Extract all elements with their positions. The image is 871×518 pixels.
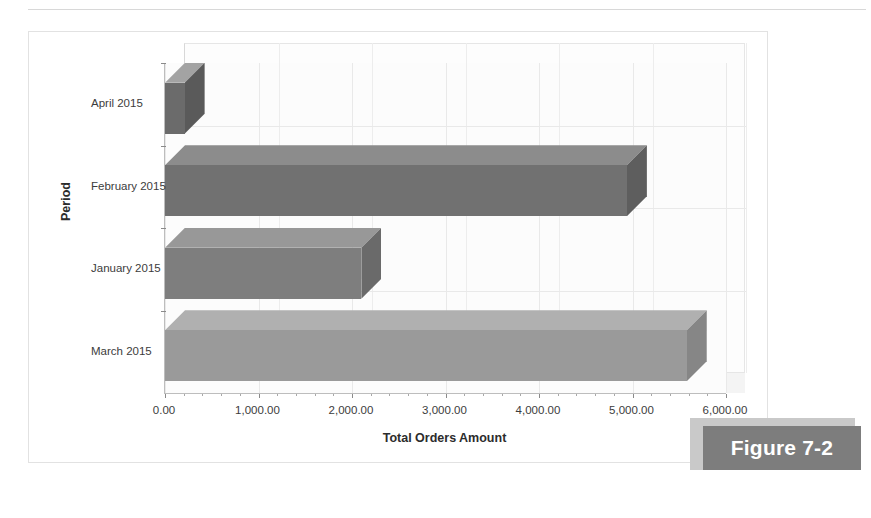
x-tick-minor bbox=[240, 394, 241, 396]
x-tick-minor bbox=[427, 394, 428, 396]
y-category-tick bbox=[161, 63, 166, 64]
x-tick-label: 6,000.00 bbox=[703, 404, 748, 416]
x-tick-minor bbox=[520, 394, 521, 396]
page-top-rule bbox=[28, 9, 866, 10]
gridline-horizontal bbox=[185, 126, 746, 127]
bar-front-face bbox=[165, 165, 627, 216]
bar-march-2015[interactable] bbox=[165, 330, 707, 381]
x-tick-minor bbox=[315, 394, 316, 396]
gridline-vertical bbox=[746, 43, 747, 373]
x-tick-minor bbox=[576, 394, 577, 396]
x-tick-label: 3,000.00 bbox=[422, 404, 467, 416]
x-tick bbox=[259, 394, 260, 398]
bar-top-face bbox=[165, 228, 381, 248]
x-tick bbox=[633, 394, 634, 398]
x-tick-minor bbox=[184, 394, 185, 396]
plot-area bbox=[164, 63, 726, 394]
x-tick-minor bbox=[614, 394, 615, 396]
gridline-vertical bbox=[726, 63, 727, 393]
x-tick-minor bbox=[333, 394, 334, 396]
x-tick-label: 0.00 bbox=[153, 404, 175, 416]
x-tick-minor bbox=[221, 394, 222, 396]
x-tick-minor bbox=[408, 394, 409, 396]
bar-top-face bbox=[165, 145, 647, 165]
figure-caption: Figure 7-2 bbox=[703, 426, 861, 470]
x-tick bbox=[352, 394, 353, 398]
x-axis-title: Total Orders Amount bbox=[164, 431, 725, 445]
x-tick bbox=[446, 394, 447, 398]
x-tick-label: 5,000.00 bbox=[609, 404, 654, 416]
x-tick-minor bbox=[464, 394, 465, 396]
x-tick-minor bbox=[296, 394, 297, 396]
x-tick-minor bbox=[483, 394, 484, 396]
x-tick-label: 1,000.00 bbox=[235, 404, 280, 416]
x-tick-minor bbox=[371, 394, 372, 396]
x-tick-minor bbox=[502, 394, 503, 396]
bar-front-face bbox=[165, 83, 185, 134]
chart-container: 0.001,000.002,000.003,000.004,000.005,00… bbox=[28, 31, 768, 463]
x-tick-label: 2,000.00 bbox=[329, 404, 374, 416]
bar-front-face bbox=[165, 248, 361, 299]
x-tick-label: 4,000.00 bbox=[516, 404, 561, 416]
x-tick bbox=[726, 394, 727, 398]
y-category-label: March 2015 bbox=[91, 345, 147, 357]
y-category-label: January 2015 bbox=[91, 262, 147, 274]
x-tick bbox=[539, 394, 540, 398]
x-tick-minor bbox=[277, 394, 278, 396]
y-category-label: February 2015 bbox=[91, 180, 147, 192]
x-tick bbox=[165, 394, 166, 398]
bar-top-face bbox=[165, 310, 707, 330]
x-tick-minor bbox=[689, 394, 690, 396]
y-category-label: April 2015 bbox=[91, 97, 147, 109]
x-tick-minor bbox=[707, 394, 708, 396]
x-tick-minor bbox=[651, 394, 652, 396]
x-tick-minor bbox=[202, 394, 203, 396]
y-category-tick bbox=[161, 146, 166, 147]
bar-front-face bbox=[165, 330, 687, 381]
bar-january-2015[interactable] bbox=[165, 248, 381, 299]
bar-february-2015[interactable] bbox=[165, 165, 647, 216]
bar-april-2015[interactable] bbox=[165, 83, 205, 134]
x-tick-minor bbox=[595, 394, 596, 396]
y-axis-title: Period bbox=[59, 182, 73, 221]
y-category-tick bbox=[161, 311, 166, 312]
y-category-tick bbox=[161, 228, 166, 229]
x-tick-minor bbox=[670, 394, 671, 396]
x-tick-minor bbox=[389, 394, 390, 396]
x-tick-minor bbox=[558, 394, 559, 396]
